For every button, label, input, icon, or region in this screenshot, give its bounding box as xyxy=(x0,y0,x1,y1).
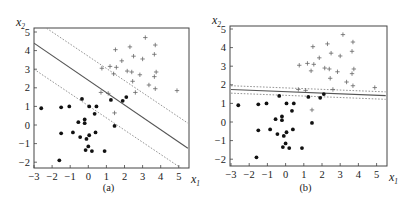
y-tick-label: 3 xyxy=(25,64,30,75)
x-tick-label: 1 xyxy=(104,171,109,182)
circle-marker-icon xyxy=(109,98,113,102)
circle-marker-icon xyxy=(285,130,289,134)
plot-area: −3−2−1012345−2−1012345x1x2(a) xyxy=(15,15,200,194)
plus-marker-icon xyxy=(305,61,309,65)
chart-panel-b: −3−2−1012345−2−1012345x1x2(b) xyxy=(197,0,403,211)
circle-markers xyxy=(39,95,128,162)
plus-marker-icon xyxy=(327,67,331,71)
plus-markers xyxy=(99,35,179,115)
x-tick-label: 2 xyxy=(122,171,127,182)
circle-marker-icon xyxy=(94,131,98,135)
x-tick-label: 2 xyxy=(319,169,324,180)
plus-marker-icon xyxy=(108,64,112,68)
plus-marker-icon xyxy=(120,59,124,63)
circle-marker-icon xyxy=(268,128,272,132)
plus-marker-icon xyxy=(344,80,348,84)
decision-boundary-line xyxy=(231,89,386,95)
plus-marker-icon xyxy=(341,32,345,36)
circle-marker-icon xyxy=(256,128,260,132)
circle-marker-icon xyxy=(300,146,304,150)
plus-markers xyxy=(296,32,377,112)
plus-marker-icon xyxy=(114,65,118,69)
circle-marker-icon xyxy=(39,106,43,110)
circle-marker-icon xyxy=(285,102,289,106)
scatter-plot-b: −3−2−1012345−2−1012345x1x2(b) xyxy=(197,0,403,211)
plus-marker-icon xyxy=(351,40,355,44)
plus-marker-icon xyxy=(138,73,142,77)
plus-marker-icon xyxy=(140,57,144,61)
circle-marker-icon xyxy=(83,121,87,125)
y-tick-label: 1 xyxy=(25,101,30,112)
plus-marker-icon xyxy=(331,87,335,91)
x-tick-label: 5 xyxy=(176,171,181,182)
decision-boundary-line xyxy=(34,43,188,148)
x-tick-label: −1 xyxy=(65,171,76,182)
circle-marker-icon xyxy=(280,115,284,119)
circle-marker-icon xyxy=(265,102,269,106)
circle-marker-icon xyxy=(291,128,295,132)
plus-marker-icon xyxy=(152,74,156,78)
x-tick-label: −3 xyxy=(225,169,236,180)
plus-marker-icon xyxy=(133,90,137,94)
plus-marker-icon xyxy=(296,87,300,91)
plus-marker-icon xyxy=(350,49,354,53)
circle-marker-icon xyxy=(310,121,314,125)
y-tick-label: 4 xyxy=(221,42,227,53)
circle-marker-icon xyxy=(274,117,278,121)
x-tick-label: −1 xyxy=(262,169,273,180)
circle-marker-icon xyxy=(103,149,107,153)
plus-marker-icon xyxy=(311,44,315,48)
circle-marker-icon xyxy=(93,112,97,116)
circle-marker-icon xyxy=(67,105,71,109)
y-tick-label: 5 xyxy=(221,24,226,35)
circle-marker-icon xyxy=(78,135,82,139)
x-axis-label: x1 xyxy=(388,170,398,186)
x-tick-label: 4 xyxy=(356,169,362,180)
plot-area: −3−2−1012345−2−1012345x1x2(b) xyxy=(211,13,398,194)
chart-panel-a: −3−2−1012345−2−1012345x1x2(a) xyxy=(0,0,200,211)
plus-marker-icon xyxy=(352,67,356,71)
plus-marker-icon xyxy=(351,84,355,88)
y-tick-label: 2 xyxy=(221,79,226,90)
panel-caption: (a) xyxy=(103,182,115,194)
plus-marker-icon xyxy=(350,71,354,75)
plus-marker-icon xyxy=(325,42,329,46)
circle-marker-icon xyxy=(85,137,89,141)
circle-marker-icon xyxy=(121,99,125,103)
y-tick-label: 3 xyxy=(221,61,226,72)
plot-frame xyxy=(34,28,189,168)
x-tick-label: −2 xyxy=(47,171,58,182)
circle-marker-icon xyxy=(80,97,84,101)
x-tick-label: 1 xyxy=(301,169,306,180)
plus-marker-icon xyxy=(152,52,156,56)
plus-marker-icon xyxy=(147,83,151,87)
plus-marker-icon xyxy=(143,35,147,39)
plus-marker-icon xyxy=(373,85,377,89)
circle-marker-icon xyxy=(281,145,285,149)
upper-margin-line xyxy=(231,86,386,92)
circle-marker-icon xyxy=(306,95,310,99)
y-axis-label: x2 xyxy=(15,15,25,31)
circle-marker-icon xyxy=(277,94,281,98)
circle-marker-icon xyxy=(87,133,91,137)
circle-marker-icon xyxy=(59,105,63,109)
circle-marker-icon xyxy=(113,124,117,128)
y-tick-label: 4 xyxy=(25,45,31,56)
circle-marker-icon xyxy=(236,103,240,107)
circle-markers xyxy=(236,92,325,159)
x-tick-label: 3 xyxy=(140,171,145,182)
circle-marker-icon xyxy=(292,102,296,106)
y-tick-label: 2 xyxy=(25,82,30,93)
circle-marker-icon xyxy=(255,155,259,159)
circle-marker-icon xyxy=(86,144,90,148)
x-tick-label: 0 xyxy=(283,169,288,180)
plus-marker-icon xyxy=(153,43,157,47)
y-tick-label: 0 xyxy=(25,120,30,131)
circle-marker-icon xyxy=(287,146,291,150)
circle-marker-icon xyxy=(84,148,88,152)
plus-marker-icon xyxy=(128,45,132,49)
plus-marker-icon xyxy=(323,66,327,70)
circle-marker-icon xyxy=(318,96,322,100)
y-tick-label: −1 xyxy=(19,138,30,149)
circle-marker-icon xyxy=(90,149,94,153)
